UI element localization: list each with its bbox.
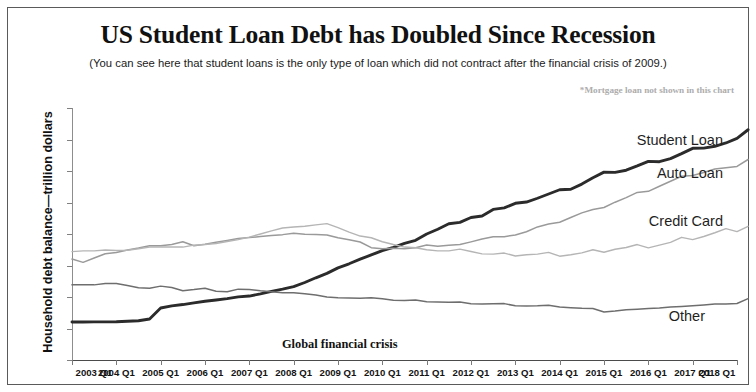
x-tick-label: 2015 Q1 bbox=[586, 367, 623, 378]
x-tick-mark bbox=[648, 360, 649, 365]
x-tick-label: 2005 Q1 bbox=[142, 367, 179, 378]
x-tick-label: 2004 Q1 bbox=[98, 367, 135, 378]
series-line-credit-card bbox=[72, 224, 748, 257]
x-tick-label: 2010 Q1 bbox=[364, 367, 401, 378]
x-tick-label: 2012 Q1 bbox=[453, 367, 490, 378]
x-tick-mark bbox=[249, 360, 250, 365]
x-tick-label: 2016 Q1 bbox=[630, 367, 667, 378]
x-tick-label: 2006 Q1 bbox=[187, 367, 224, 378]
x-tick-mark bbox=[161, 360, 162, 365]
x-tick-mark bbox=[116, 360, 117, 365]
x-tick-mark bbox=[294, 360, 295, 365]
chart-page: US Student Loan Debt has Doubled Since R… bbox=[0, 0, 756, 392]
x-tick-mark bbox=[205, 360, 206, 365]
x-tick-mark bbox=[471, 360, 472, 365]
series-label-credit-card: Credit Card bbox=[649, 213, 723, 229]
x-tick-mark bbox=[427, 360, 428, 365]
series-label-auto-loan: Auto Loan bbox=[657, 165, 723, 181]
x-tick-mark bbox=[382, 360, 383, 365]
x-tick-mark bbox=[604, 360, 605, 365]
x-tick-label: 2014 Q1 bbox=[541, 367, 578, 378]
crisis-annotation: Global financial crisis bbox=[282, 337, 398, 352]
x-tick-mark bbox=[515, 360, 516, 365]
x-tick-mark bbox=[72, 360, 73, 365]
y-axis-label: Household debt balance—trillion dollars bbox=[41, 107, 55, 357]
series-line-student-loan bbox=[72, 130, 748, 322]
x-tick-label: 2009 Q1 bbox=[320, 367, 357, 378]
chart-footnote: *Mortgage loan not shown in this chart bbox=[580, 85, 734, 95]
x-tick-label: 2008 Q1 bbox=[275, 367, 312, 378]
x-tick-label: 2011 Q1 bbox=[409, 367, 445, 378]
page-title: US Student Loan Debt has Doubled Since R… bbox=[0, 20, 756, 50]
x-tick-mark bbox=[338, 360, 339, 365]
plot-area: 00.20.40.60.811.21.41.6 2003 Q12004 Q120… bbox=[72, 108, 737, 360]
x-axis-line bbox=[72, 360, 737, 361]
x-tick-label: 2018 Q1 bbox=[699, 367, 736, 378]
x-tick-label: 2007 Q1 bbox=[231, 367, 268, 378]
chart-subtitle: (You can see here that student loans is … bbox=[0, 57, 756, 69]
series-line-other bbox=[72, 283, 748, 312]
x-tick-mark bbox=[560, 360, 561, 365]
series-label-student-loan: Student Loan bbox=[637, 132, 723, 148]
series-label-other: Other bbox=[669, 308, 705, 324]
x-tick-label: 2013 Q1 bbox=[497, 367, 534, 378]
x-tick-mark bbox=[693, 360, 694, 365]
x-tick-mark bbox=[737, 360, 738, 365]
